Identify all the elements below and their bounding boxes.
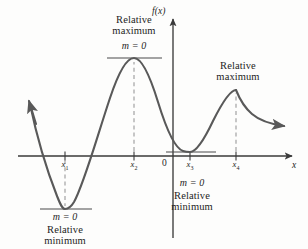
tick-label-x4-sub: 4 xyxy=(236,165,239,171)
annotation-left-min-line1: Relative xyxy=(44,224,86,235)
tick-label-x4: x4 xyxy=(233,160,240,171)
annotation-right-min-title: Relative minimum xyxy=(171,190,213,213)
annotation-left-min-title: Relative minimum xyxy=(44,224,86,247)
annotation-mid-max-line1: Relative xyxy=(112,14,155,25)
annotation-mid-max-slope: m = 0 xyxy=(122,41,146,52)
annotation-cusp-max-line1: Relative xyxy=(216,60,259,71)
annotation-cusp-max-line2: maximum xyxy=(216,71,259,82)
tick-label-x2: x2 xyxy=(131,160,138,171)
annotation-left-min-slope: m = 0 xyxy=(53,212,77,223)
annotation-mid-max-line2: maximum xyxy=(112,25,155,36)
annotation-right-min-line2: minimum xyxy=(171,201,213,212)
function-curve-left xyxy=(30,58,236,209)
origin-label: 0 xyxy=(162,158,167,168)
tick-label-x2-sub: 2 xyxy=(134,165,137,171)
curve-start-arrow xyxy=(29,101,36,124)
x-axis-label: x xyxy=(292,160,296,170)
tick-label-x1: x1 xyxy=(62,160,69,171)
annotation-right-min-slope: m = 0 xyxy=(180,178,204,189)
y-axis-label: f(x) xyxy=(152,6,166,16)
calculus-relative-extrema-figure: Relative maximum m = 0 Relative maximum … xyxy=(0,0,308,249)
tick-label-x3: x3 xyxy=(187,160,194,171)
tick-label-x1-sub: 1 xyxy=(65,165,68,171)
annotation-mid-max-title: Relative maximum xyxy=(112,14,155,37)
annotation-right-min-line1: Relative xyxy=(171,190,213,201)
graph-canvas xyxy=(0,0,308,249)
tick-label-x3-sub: 3 xyxy=(190,165,193,171)
annotation-cusp-max-title: Relative maximum xyxy=(216,60,259,83)
function-curve-right-tail xyxy=(236,90,284,126)
annotation-left-min-line2: minimum xyxy=(44,235,86,246)
